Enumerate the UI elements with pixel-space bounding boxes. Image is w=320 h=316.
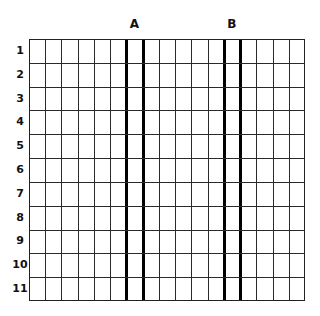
row-label: 1: [9, 44, 31, 57]
column-marker-label: A: [125, 17, 145, 31]
column-divider: [289, 40, 290, 300]
row-label: 6: [9, 163, 31, 176]
row-divider: [30, 253, 304, 254]
row-divider: [30, 206, 304, 207]
row-divider: [30, 134, 304, 135]
row-divider: [30, 110, 304, 111]
column-divider: [208, 40, 209, 300]
column-divider: [110, 40, 111, 300]
row-label: 9: [9, 234, 31, 247]
thick-column-divider: [142, 40, 145, 300]
row-label: 7: [9, 187, 31, 200]
row-divider: [30, 87, 304, 88]
column-divider: [45, 40, 46, 300]
thick-column-divider: [125, 40, 128, 300]
column-divider: [61, 40, 62, 300]
row-divider: [30, 182, 304, 183]
row-divider: [30, 63, 304, 64]
row-label: 10: [9, 258, 31, 271]
column-divider: [191, 40, 192, 300]
grid: [29, 39, 305, 301]
row-divider: [30, 277, 304, 278]
column-divider: [273, 40, 274, 300]
column-divider: [175, 40, 176, 300]
column-marker-label: B: [222, 17, 242, 31]
thick-column-divider: [239, 40, 242, 300]
row-label: 2: [9, 68, 31, 81]
column-divider: [94, 40, 95, 300]
row-divider: [30, 230, 304, 231]
row-divider: [30, 158, 304, 159]
row-label: 3: [9, 92, 31, 105]
row-label: 8: [9, 211, 31, 224]
column-divider: [256, 40, 257, 300]
row-label: 11: [9, 282, 31, 295]
column-divider: [159, 40, 160, 300]
row-label: 5: [9, 139, 31, 152]
row-label: 4: [9, 115, 31, 128]
column-divider: [78, 40, 79, 300]
thick-column-divider: [223, 40, 226, 300]
